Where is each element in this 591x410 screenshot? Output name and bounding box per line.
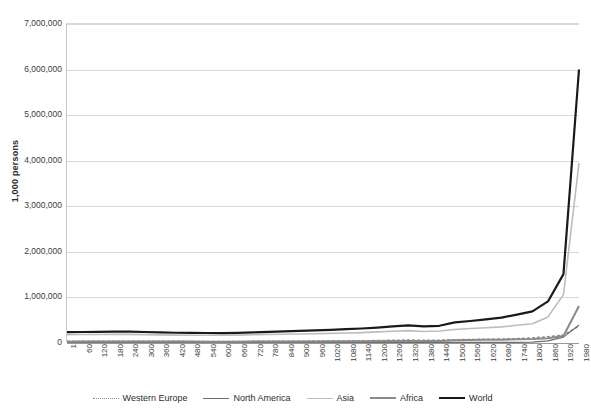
x-tick-label: 1500 (459, 344, 467, 362)
y-tick-label: 2,000,000 (22, 246, 62, 256)
legend-line-swatch (370, 397, 396, 399)
x-tick-label: 1560 (474, 344, 482, 362)
x-tick-label: 480 (194, 344, 202, 357)
legend-line-swatch (307, 398, 333, 399)
y-tick-label: 1,000,000 (22, 291, 62, 301)
x-tick-label: 960 (319, 344, 327, 357)
y-tick-label: 0 (22, 337, 62, 347)
legend-label: Asia (337, 393, 355, 403)
legend-entry[interactable]: Western Europe (93, 393, 188, 403)
x-tick-label: 1140 (365, 344, 373, 361)
series-line (67, 69, 579, 333)
x-tick-label: 1380 (428, 344, 436, 362)
x-tick-label: 360 (163, 344, 171, 357)
x-tick-label: 1080 (350, 344, 358, 362)
x-tick-label: 420 (179, 344, 187, 357)
x-tick-label: 1320 (412, 344, 420, 362)
x-tick-label: 1680 (505, 344, 513, 362)
y-tick-label: 3,000,000 (22, 200, 62, 210)
x-tick-label: 1020 (334, 344, 342, 362)
y-tick-label: 6,000,000 (22, 64, 62, 74)
legend-line-swatch (439, 397, 465, 399)
y-axis-tick-labels: 7,000,0006,000,0005,000,0004,000,0003,00… (22, 0, 62, 360)
x-tick-label: 1980 (583, 344, 591, 362)
x-tick-label: 840 (288, 344, 296, 357)
x-tick-label: 660 (241, 344, 249, 357)
series-line (67, 306, 579, 342)
legend-label: Western Europe (123, 393, 188, 403)
x-tick-label: 240 (132, 344, 140, 357)
legend-line-swatch (93, 398, 119, 399)
x-tick-label: 1620 (490, 344, 498, 362)
y-axis-title-label: 1,000 persons (10, 140, 20, 203)
y-tick-label: 4,000,000 (22, 155, 62, 165)
x-tick-label: 1860 (552, 344, 560, 362)
plot-area (66, 23, 579, 342)
x-tick-label: 120 (101, 344, 109, 357)
legend-label: Africa (400, 393, 423, 403)
x-tick-label: 1920 (567, 344, 575, 362)
x-tick-label: 1440 (443, 344, 451, 362)
chart-legend: Western EuropeNorth AmericaAsiaAfricaWor… (0, 388, 585, 408)
legend-label: North America (233, 393, 290, 403)
series-line (67, 163, 579, 335)
x-axis-tick-labels: 1601201802403003604204805406006607207808… (66, 344, 579, 384)
x-tick-label: 780 (272, 344, 280, 357)
legend-entry[interactable]: Africa (370, 393, 423, 403)
x-tick-label: 1740 (521, 344, 529, 362)
y-tick-label: 7,000,000 (22, 18, 62, 28)
legend-line-swatch (203, 398, 229, 399)
y-tick-label: 5,000,000 (22, 109, 62, 119)
x-tick-label: 900 (303, 344, 311, 357)
series-lines (67, 24, 579, 342)
x-tick-label: 1 (70, 344, 78, 348)
legend-entry[interactable]: North America (203, 393, 290, 403)
x-tick-label: 1200 (381, 344, 389, 362)
x-tick-label: 720 (257, 344, 265, 357)
x-tick-label: 540 (210, 344, 218, 357)
x-tick-label: 600 (225, 344, 233, 357)
x-tick-label: 180 (117, 344, 125, 357)
x-tick-label: 1260 (396, 344, 404, 362)
x-tick-label: 300 (148, 344, 156, 357)
x-tick-label: 60 (86, 344, 94, 353)
x-tick-label: 1800 (536, 344, 544, 362)
legend-entry[interactable]: World (439, 393, 492, 403)
legend-entry[interactable]: Asia (307, 393, 355, 403)
legend-label: World (469, 393, 492, 403)
